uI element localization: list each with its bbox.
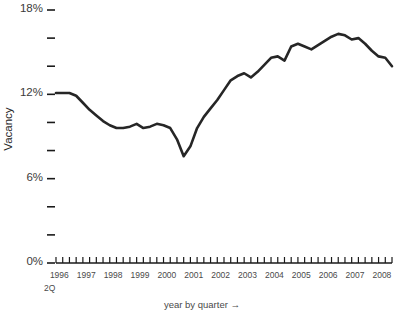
x-axis-start-quarter-label: 2Q [44, 283, 55, 293]
y-tick-label: 18% [0, 2, 43, 14]
x-tick-label: 2008 [362, 270, 402, 280]
y-tick-label: 12% [0, 86, 43, 98]
x-axis-title: year by quarter → [0, 299, 404, 310]
x-axis-tick-marks [56, 257, 392, 263]
y-axis-tick-marks [47, 10, 55, 263]
y-tick-label: 0% [0, 255, 43, 267]
vacancy-series-line [56, 34, 392, 156]
vacancy-line-chart: 18%12%6%0% 19961997199819992000200120022… [0, 0, 404, 321]
y-tick-label: 6% [0, 171, 43, 183]
y-axis-title: Vacancy [2, 99, 14, 159]
